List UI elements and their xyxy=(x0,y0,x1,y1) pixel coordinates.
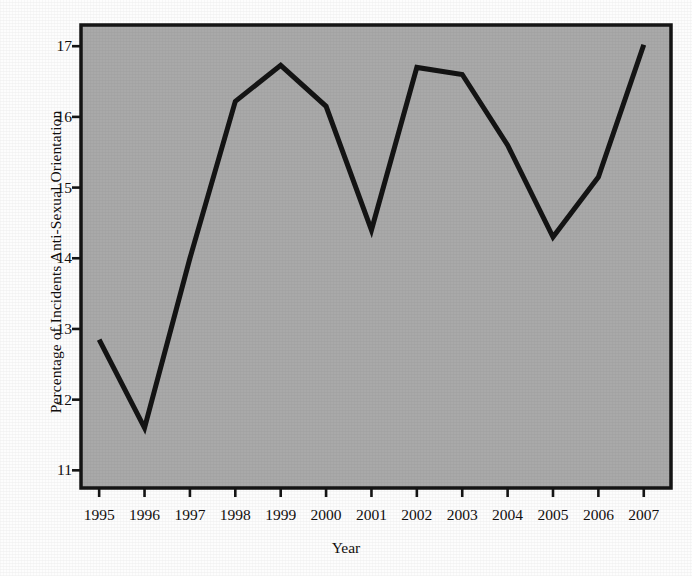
line-chart-figure: 11121314151617 1995199619971998199920002… xyxy=(0,0,692,576)
x-axis-title: Year xyxy=(0,539,692,557)
x-tick-label: 2007 xyxy=(614,507,674,523)
y-axis-title: Percentage of Incidents Anti-Sexual Orie… xyxy=(47,27,65,497)
x-axis-tick-labels: 1995199619971998199920002001200220032004… xyxy=(0,0,692,576)
